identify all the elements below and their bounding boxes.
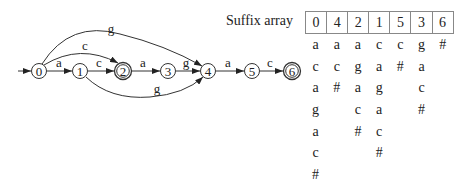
- edge-label: a: [140, 55, 146, 70]
- suffix-char: a: [355, 77, 361, 99]
- svg-text:3: 3: [165, 64, 172, 79]
- suffix-column: gac#: [411, 34, 432, 186]
- svg-text:6: 6: [289, 64, 296, 79]
- edge-0-4: [42, 31, 202, 66]
- edge-label: a: [225, 55, 231, 70]
- suffix-column: acagac#: [305, 34, 326, 186]
- svg-text:1: 1: [77, 64, 84, 79]
- suffix-char: c: [312, 56, 318, 78]
- suffix-column: ac#: [326, 34, 347, 186]
- suffix-column: #: [432, 34, 453, 186]
- suffix-char: c: [397, 34, 403, 56]
- state-1: 1: [73, 64, 88, 79]
- suffix-char: c: [376, 121, 382, 143]
- suffix-char: c: [334, 56, 340, 78]
- suffix-char: a: [418, 56, 424, 78]
- state-0: 0: [32, 64, 47, 79]
- suffix-char: #: [376, 142, 383, 164]
- suffix-char: g: [312, 99, 319, 121]
- suffix-column: c#: [390, 34, 411, 186]
- suffix-char: a: [334, 34, 340, 56]
- suffix-char: #: [439, 34, 446, 56]
- suffix-char: c: [376, 34, 382, 56]
- suffix-char: c: [355, 99, 361, 121]
- state-6-final: 6: [284, 63, 301, 80]
- suffix-char: #: [397, 56, 404, 78]
- suffix-char: g: [354, 56, 361, 78]
- suffix-char: g: [418, 34, 425, 56]
- suffix-columns: acagac#ac#agac#cagac#c#gac##: [305, 34, 453, 186]
- index-cell: 0: [306, 12, 327, 33]
- suffix-char: #: [354, 121, 361, 143]
- suffix-array-indices: 0 4 2 1 5 3 6: [305, 11, 454, 34]
- svg-text:4: 4: [205, 64, 212, 79]
- index-cell: 2: [348, 12, 369, 33]
- index-cell: 3: [411, 12, 432, 33]
- edge-label: c: [82, 38, 88, 53]
- suffix-char: c: [418, 77, 424, 99]
- edge-label: a: [56, 55, 62, 70]
- suffix-char: #: [418, 99, 425, 121]
- index-cell: 5: [390, 12, 411, 33]
- index-cell: 6: [433, 12, 453, 33]
- svg-text:0: 0: [36, 64, 43, 79]
- suffix-char: c: [312, 142, 318, 164]
- suffix-char: #: [333, 77, 340, 99]
- suffix-char: #: [312, 164, 319, 186]
- suffix-char: g: [376, 77, 383, 99]
- suffix-column: agac#: [347, 34, 368, 186]
- suffix-column: cagac#: [369, 34, 390, 186]
- state-4: 4: [201, 64, 216, 79]
- edge-label: g: [108, 21, 115, 36]
- index-cell: 4: [327, 12, 348, 33]
- index-cell: 1: [369, 12, 390, 33]
- svg-text:5: 5: [249, 64, 256, 79]
- state-2-final: 2: [115, 63, 132, 80]
- suffix-char: a: [355, 34, 361, 56]
- state-3: 3: [161, 64, 176, 79]
- edge-1-4: [86, 77, 203, 97]
- edge-label: c: [96, 55, 102, 70]
- svg-text:2: 2: [120, 64, 127, 79]
- edge-label: c: [267, 55, 273, 70]
- suffix-char: a: [376, 56, 382, 78]
- suffix-char: a: [312, 77, 318, 99]
- suffix-char: a: [312, 121, 318, 143]
- suffix-char: a: [376, 99, 382, 121]
- edge-label: g: [154, 81, 161, 96]
- suffix-char: a: [312, 34, 318, 56]
- suffix-array-title: Suffix array: [226, 13, 293, 29]
- edge-label: g: [183, 55, 190, 70]
- state-5: 5: [245, 64, 260, 79]
